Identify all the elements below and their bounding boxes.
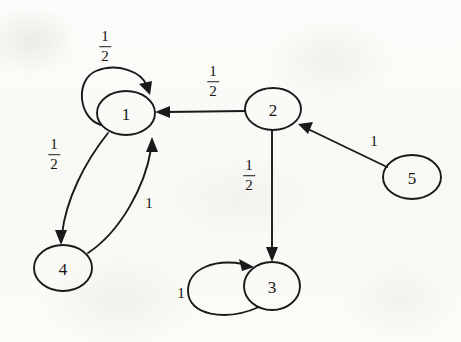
edge-1-to-1-path [82, 68, 147, 125]
fraction-numerator: 1 [48, 137, 60, 154]
edge-label-4-to-1: 1 [145, 196, 153, 211]
edge-2-to-3-arrowhead [266, 247, 278, 262]
fraction-numerator: 1 [243, 158, 255, 175]
edge-1-to-1-arrowhead [139, 81, 152, 95]
fraction-one-half: 1 2 [99, 29, 111, 65]
fraction-bar [207, 81, 219, 82]
edge-1-to-1 [82, 68, 152, 125]
edge-1-to-4-path [62, 133, 108, 234]
edge-1-to-4-arrowhead [55, 230, 67, 245]
edge-2-to-1-arrowhead [155, 106, 170, 118]
edge-3-to-3 [188, 259, 259, 315]
edge-4-to-1-path [88, 149, 151, 253]
fraction-one-half: 1 2 [48, 137, 60, 173]
edge-2-to-1-path [166, 111, 245, 112]
edge-label-2-to-1: 1 2 [207, 64, 219, 100]
fraction-denominator: 2 [99, 48, 111, 65]
node-2-label: 2 [269, 102, 278, 119]
edge-label-1-to-1: 1 2 [99, 29, 111, 65]
fraction-denominator: 2 [207, 83, 219, 100]
fraction-denominator: 2 [48, 156, 60, 173]
fraction-numerator: 1 [99, 29, 111, 46]
fraction-numerator: 1 [207, 64, 219, 81]
node-4-label: 4 [59, 261, 68, 278]
edge-2-to-3 [266, 130, 278, 262]
node-5-label: 5 [408, 170, 417, 187]
edge-label-1-to-4: 1 2 [48, 137, 60, 173]
fraction-one-half: 1 2 [243, 158, 255, 194]
fraction-bar [48, 154, 60, 155]
edge-4-to-1-arrowhead [146, 137, 158, 152]
state-transition-diagram: 1 2 3 4 5 1 2 1 2 1 2 1 1 2 [0, 0, 461, 342]
edge-2-to-1 [155, 106, 245, 118]
node-1-label: 1 [122, 106, 131, 123]
fraction-denominator: 2 [243, 177, 255, 194]
edge-1-to-4 [55, 133, 108, 245]
edge-label-2-to-3: 1 2 [243, 158, 255, 194]
node-3-label: 3 [268, 279, 277, 296]
edge-5-to-2-arrowhead [298, 122, 313, 134]
edge-3-to-3-path [188, 263, 259, 315]
fraction-one-half: 1 2 [207, 64, 219, 100]
edge-label-5-to-2: 1 [370, 134, 378, 149]
graph-canvas [0, 0, 461, 342]
fraction-bar [243, 175, 255, 176]
edge-label-3-to-3: 1 [177, 286, 185, 301]
fraction-bar [99, 46, 111, 47]
